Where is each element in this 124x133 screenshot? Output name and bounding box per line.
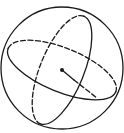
great-circle-vertical-front-arc [40,16,104,132]
great-circle-horizontal-back-arc [8,28,124,92]
great-circle-horizontal-front-arc [0,48,116,112]
sphere-svg [0,0,124,133]
center-point [60,68,64,72]
great-circle-vertical-back-arc [20,8,84,124]
sphere-diagram [0,0,124,133]
radius-line-solid [62,70,74,80]
